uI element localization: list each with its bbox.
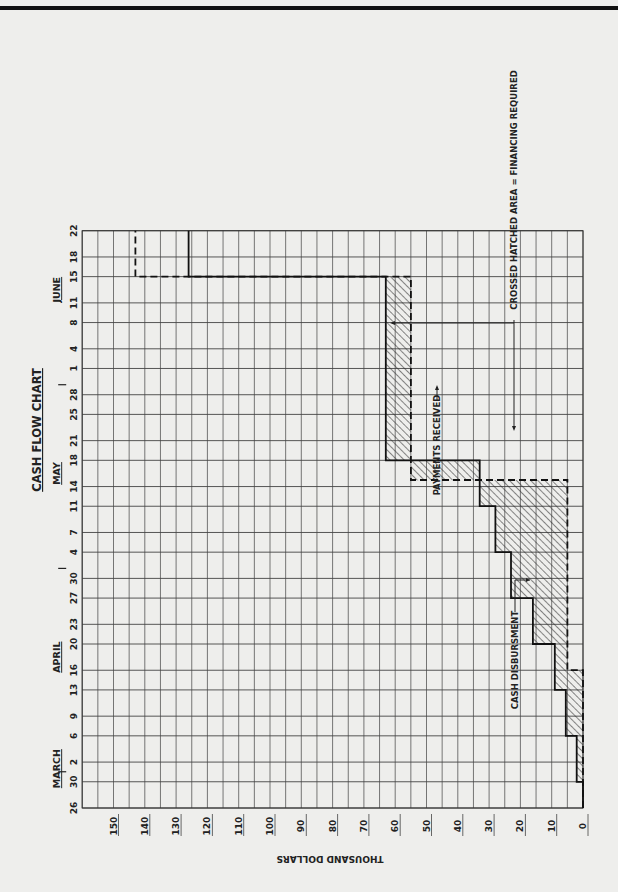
date-tick-label: 27	[69, 592, 79, 605]
value-tick-label: 100	[265, 817, 275, 836]
value-tick-label: 110	[234, 817, 244, 836]
date-tick-label: 1	[69, 365, 79, 371]
value-tick-label: 150	[109, 817, 119, 836]
value-tick-label: 10	[547, 820, 557, 833]
date-tick-label: 11	[69, 500, 79, 513]
date-tick-label: 26	[69, 802, 79, 815]
month-label: JUNE	[51, 277, 62, 304]
date-tick-label: 9	[69, 713, 79, 719]
chart-title: CASH FLOW CHART	[30, 368, 44, 492]
date-tick-label: 16	[69, 664, 79, 677]
value-tick-label: 30	[484, 820, 494, 833]
date-tick-label: 21	[69, 434, 79, 447]
value-tick-label: 80	[328, 820, 338, 833]
date-tick-label: 30	[69, 572, 79, 585]
date-tick-label: 18	[69, 454, 79, 467]
value-tick-label: 0	[578, 823, 588, 829]
date-tick-label: 23	[69, 618, 79, 631]
date-tick-label: 18	[69, 251, 79, 264]
date-tick-label: 20	[69, 638, 79, 651]
date-tick-label: 4	[69, 549, 79, 555]
date-tick-label: 11	[69, 297, 79, 310]
value-tick-label: 20	[515, 820, 525, 833]
date-tick-label: 6	[69, 733, 79, 739]
cash-flow-chart: 0102030405060708090100110120130140150THO…	[0, 0, 618, 892]
financing-required-annotation: CROSSED HATCHED AREA = FINANCING REQUIRE…	[509, 70, 519, 310]
value-tick-label: 120	[202, 817, 212, 836]
date-tick-label: 4	[69, 346, 79, 352]
value-tick-label: 130	[171, 817, 181, 836]
value-tick-label: 40	[453, 820, 463, 833]
value-tick-label: 70	[359, 820, 369, 833]
month-label: MARCH	[51, 749, 62, 788]
date-tick-label: 7	[69, 529, 79, 535]
date-tick-label: 28	[69, 388, 79, 401]
date-tick-label: 30	[69, 775, 79, 788]
date-tick-label: 14	[69, 480, 79, 493]
payments-received-annotation: PAYMENTS RECEIVED	[432, 395, 442, 496]
value-tick-label: 90	[296, 820, 306, 833]
month-label: MAY	[51, 462, 62, 485]
date-tick-label: 13	[69, 684, 79, 697]
date-tick-label: 2	[69, 759, 79, 765]
date-tick-label: 22	[69, 224, 79, 237]
value-tick-label: 50	[422, 820, 432, 833]
value-tick-label: 140	[140, 817, 150, 836]
date-tick-label: 25	[69, 408, 79, 421]
value-axis-title: THOUSAND DOLLARS	[276, 854, 383, 864]
date-tick-label: 8	[69, 319, 79, 325]
date-tick-label: 15	[69, 270, 79, 283]
financing-hatched-area	[386, 277, 583, 782]
value-tick-label: 60	[390, 820, 400, 833]
month-label: APRIL	[51, 642, 62, 673]
cash-disbursement-annotation: CASH DISBURSMENT	[510, 611, 520, 710]
